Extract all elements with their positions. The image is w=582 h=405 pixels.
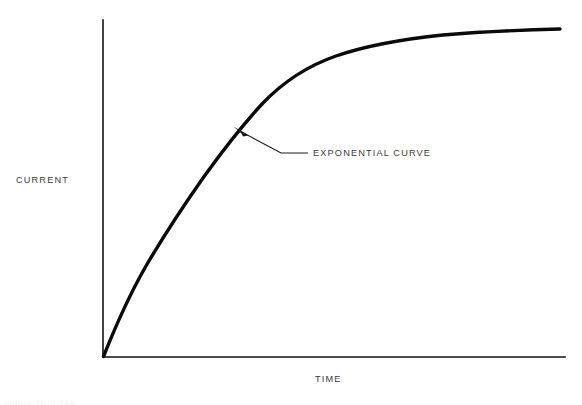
- cut-off-caption: Figure 10-3 The: [4, 400, 76, 405]
- exponential-curve-figure: EXPONENTIAL CURVE CURRENT TIME Figure 10…: [0, 0, 582, 405]
- x-axis-label: TIME: [315, 374, 342, 384]
- annotation-leader-line: [240, 131, 308, 153]
- exponential-curve-path: [104, 29, 561, 357]
- chart-canvas: EXPONENTIAL CURVE CURRENT TIME: [0, 0, 582, 405]
- annotation-label: EXPONENTIAL CURVE: [313, 148, 431, 158]
- y-axis-label: CURRENT: [16, 175, 69, 185]
